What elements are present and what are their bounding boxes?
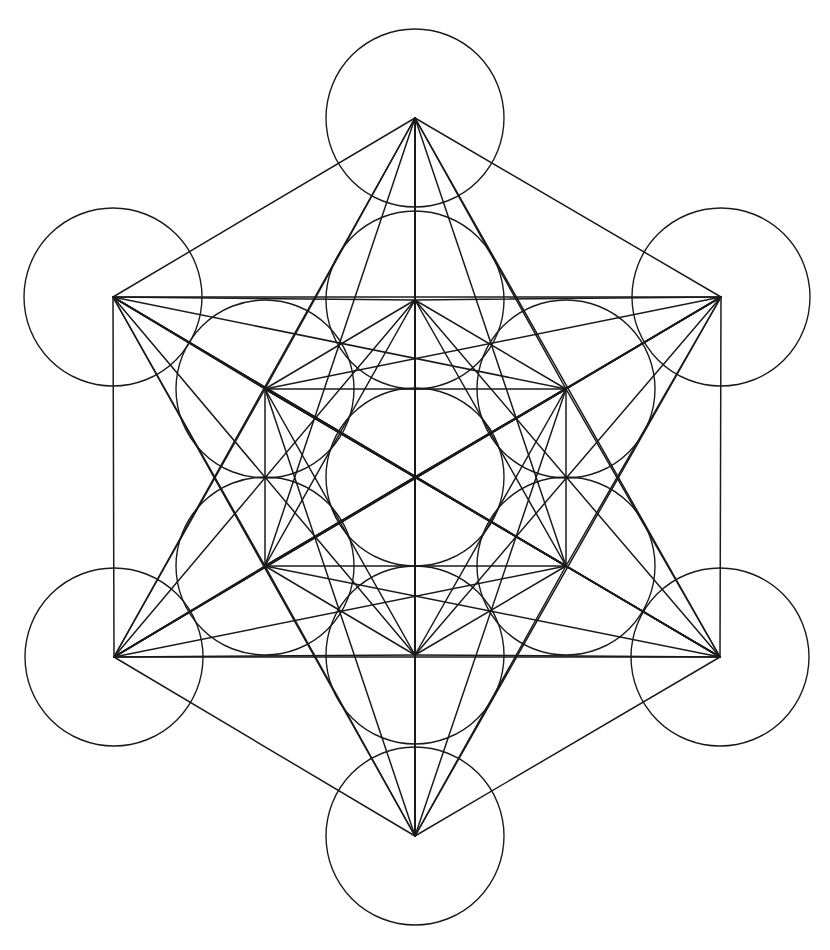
connection-line-outer-sw-to-outer-nw [113, 297, 114, 657]
metatrons-cube-figure [0, 0, 830, 950]
metatron-cube-canvas [0, 0, 830, 950]
connection-line-outer-ne-to-outer-se [720, 297, 721, 657]
